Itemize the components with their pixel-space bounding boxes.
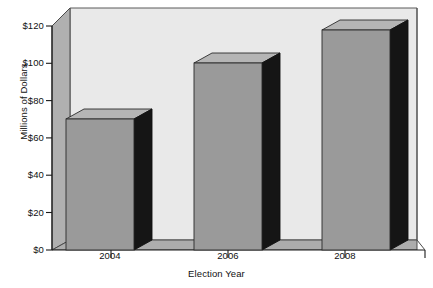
bar-2006[interactable]: [194, 53, 280, 250]
bar-2008-front-face: [322, 30, 390, 250]
chart-canvas: [0, 0, 433, 288]
bar-2004[interactable]: [66, 109, 152, 250]
bar-2006-front-face: [194, 63, 262, 250]
plot-floor-right-edge: [417, 240, 425, 250]
ytick-label-20: $20: [0, 207, 44, 218]
bar-2004-front-face: [66, 119, 134, 250]
y-tick-marks: [46, 26, 52, 250]
bar-chart: $120 $100 $80 $60 $40 $20 $0 2004 2006 2…: [0, 0, 433, 288]
ytick-label-0: $0: [0, 244, 44, 255]
xtick-label-2006: 2006: [188, 250, 268, 261]
bar-2004-side-face: [134, 109, 152, 250]
x-axis-title: Election Year: [0, 268, 433, 279]
xtick-label-2004: 2004: [70, 250, 150, 261]
bar-2008-side-face: [390, 20, 408, 250]
y-axis-title: Millions of Dollars: [18, 27, 29, 177]
xtick-label-2008: 2008: [305, 250, 385, 261]
bar-2008[interactable]: [322, 20, 408, 250]
bar-2006-side-face: [262, 53, 280, 250]
